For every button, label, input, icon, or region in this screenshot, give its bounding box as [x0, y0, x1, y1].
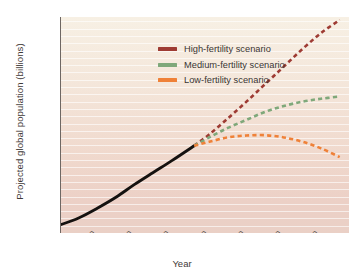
legend-swatch-icon: [158, 78, 177, 82]
series-line-medium-fertility-scenario: [194, 97, 339, 146]
y-axis-title: Projected global population (billions): [14, 7, 25, 237]
y-axis-line: [60, 17, 61, 233]
chart-figure: Projected global population (billions) 2…: [0, 0, 364, 274]
series-line-low-fertility-scenario: [194, 135, 339, 157]
legend-item: High-fertility scenario: [158, 44, 285, 54]
plot-area: 246810121416 196019802000202020402060208…: [60, 17, 349, 233]
legend-swatch-icon: [158, 63, 177, 67]
legend-label: Low-fertility scenario: [184, 75, 269, 85]
legend-label: Medium-fertility scenario: [184, 60, 285, 70]
series-line-historical: [60, 146, 194, 225]
legend-swatch-icon: [158, 47, 177, 51]
legend-item: Low-fertility scenario: [158, 75, 285, 85]
chart-legend: High-fertility scenarioMedium-fertility …: [158, 44, 285, 85]
x-axis-title: Year: [0, 258, 364, 269]
legend-item: Medium-fertility scenario: [158, 60, 285, 70]
legend-label: High-fertility scenario: [184, 44, 271, 54]
